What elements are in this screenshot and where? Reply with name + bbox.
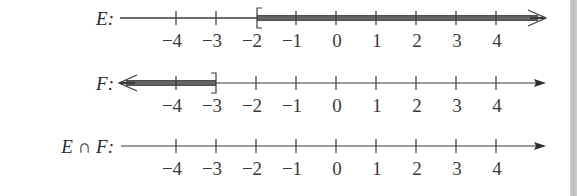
tick-label: −4: [162, 159, 182, 178]
number-line-e: [120, 8, 546, 28]
tick-label: −2: [242, 31, 262, 50]
page-edge-bar: [570, 0, 577, 196]
tick-label: 3: [452, 96, 462, 115]
tick-label: 4: [492, 159, 502, 178]
tick-label: −1: [282, 159, 302, 178]
tick-label: 2: [412, 159, 422, 178]
tick-label: 3: [452, 31, 462, 50]
tick-label: −3: [202, 96, 222, 115]
number-line-figure: E: F: E ∩ F:: [0, 0, 577, 196]
tick-label: 0: [332, 31, 342, 50]
tick-label: −4: [162, 31, 182, 50]
tick-label: 4: [492, 96, 502, 115]
number-line-e-intersect-f: [121, 139, 546, 153]
tick-label: −3: [202, 31, 222, 50]
tick-label: 0: [332, 159, 342, 178]
tick-label: −3: [202, 159, 222, 178]
shaded-ray-f: [126, 81, 216, 85]
tick-label: 3: [452, 159, 462, 178]
tick-label: 4: [492, 31, 502, 50]
tick-label: −1: [282, 31, 302, 50]
number-line-f: [119, 73, 546, 93]
tick-label: 1: [372, 31, 382, 50]
tick-label: −2: [242, 159, 262, 178]
tick-label: −1: [282, 96, 302, 115]
tick-label: 1: [372, 96, 382, 115]
tick-label: 1: [372, 159, 382, 178]
tick-label: 2: [412, 96, 422, 115]
tick-label: −4: [162, 96, 182, 115]
tick-label: −2: [242, 96, 262, 115]
tick-label: 0: [332, 96, 342, 115]
tick-label: 2: [412, 31, 422, 50]
